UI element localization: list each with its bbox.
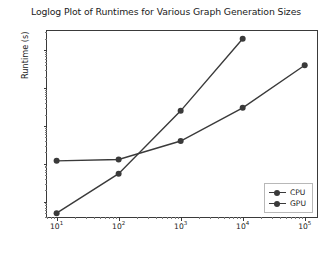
data-point-gpu (54, 158, 60, 164)
x-tick-label: 104 (236, 222, 249, 231)
y-axis-label: Runtime (s) (20, 32, 30, 79)
data-point-gpu (240, 105, 246, 111)
legend-line-icon (269, 203, 286, 204)
data-point-gpu (178, 138, 184, 144)
x-tick-label: 103 (174, 222, 187, 231)
legend-line-icon (269, 192, 286, 193)
data-point-gpu (302, 62, 308, 68)
data-point-cpu (240, 36, 246, 42)
legend-label: CPU (290, 188, 305, 197)
x-tick-label: 101 (50, 222, 63, 231)
legend-item-cpu: CPU (269, 187, 306, 198)
chart-title: Loglog Plot of Runtimes for Various Grap… (0, 6, 332, 17)
data-point-cpu (178, 108, 184, 114)
plot-area: Runtime (s) Number of Nodes in Graph 102… (46, 30, 318, 218)
series-line-cpu (57, 39, 243, 213)
data-point-cpu (116, 171, 122, 177)
legend-label: GPU (290, 199, 306, 208)
data-point-gpu (116, 157, 122, 163)
x-tick-label: 102 (112, 222, 125, 231)
legend-item-gpu: GPU (269, 198, 306, 209)
legend: CPU GPU (264, 183, 313, 213)
data-point-cpu (54, 210, 60, 216)
figure: Loglog Plot of Runtimes for Various Grap… (0, 0, 332, 272)
x-tick-label: 105 (298, 222, 311, 231)
